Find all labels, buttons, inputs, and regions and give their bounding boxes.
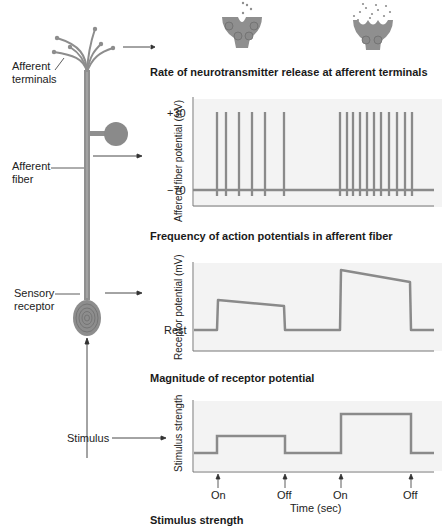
- label-afferent-terminals: Afferent terminals: [12, 60, 57, 86]
- event-label-off-1: Off: [277, 489, 291, 501]
- label-afferent-fiber: Afferent fiber: [12, 160, 50, 186]
- synaptic-terminal-strong: [353, 3, 393, 50]
- label-line: Afferent: [12, 160, 50, 173]
- rp-tick-rest: Rest: [164, 324, 187, 336]
- label-stimulus: Stimulus: [67, 432, 109, 445]
- rp-panel: [194, 263, 442, 351]
- label-line: terminals: [12, 73, 57, 86]
- label-line: receptor: [14, 300, 54, 313]
- label-line: fiber: [12, 173, 50, 186]
- title-action-potentials: Frequency of action potentials in affere…: [150, 230, 393, 242]
- title-receptor-potential: Magnitude of receptor potential: [150, 372, 314, 384]
- ss-y-axis-label: Stimulus strength: [173, 395, 184, 472]
- ap-tick-minus70: −70: [167, 184, 186, 196]
- title-stimulus-strength: Stimulus strength: [150, 514, 244, 526]
- ap-tick-plus30: +30: [167, 107, 186, 119]
- label-sensory-receptor: Sensory receptor: [14, 287, 54, 313]
- event-label-off-2: Off: [403, 489, 417, 501]
- event-label-on-2: On: [333, 489, 348, 501]
- event-arrows: [216, 474, 413, 488]
- title-neurotransmitter-release: Rate of neurotransmitter release at affe…: [150, 66, 428, 78]
- afferent-terminal-branches: [54, 29, 113, 72]
- neuron-diagram: [0, 0, 444, 531]
- sensory-receptor-shape: [73, 300, 101, 336]
- label-line: Afferent: [12, 60, 57, 73]
- label-line: Sensory: [14, 287, 54, 300]
- synaptic-terminal-weak: [222, 2, 262, 48]
- rp-y-axis-label: Receptor potential (mV): [173, 254, 184, 360]
- cell-body: [104, 122, 128, 146]
- x-axis-label: Time (sec): [290, 502, 342, 514]
- event-label-on-1: On: [211, 489, 226, 501]
